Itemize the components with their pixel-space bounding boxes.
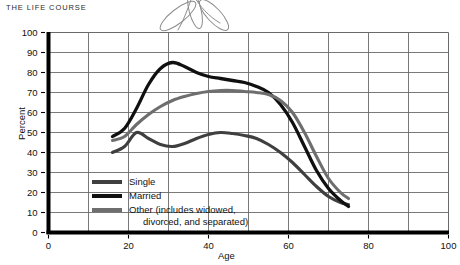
x-tick-label: 60	[274, 241, 304, 251]
x-axis-title: Age	[218, 250, 235, 261]
legend-color-swatch	[92, 208, 122, 212]
x-tick-label: 100	[434, 241, 460, 251]
y-tick-label: 10	[10, 208, 38, 218]
legend-color-swatch	[92, 194, 122, 198]
y-tick-label: 30	[10, 168, 38, 178]
x-tick-label: 80	[354, 241, 384, 251]
legend-label: Single	[129, 176, 155, 188]
y-axis-title: Percent	[16, 94, 27, 154]
line-chart-figure: 1009080706050403020100 020406080100 Perc…	[0, 0, 460, 265]
x-tick-label: 20	[114, 241, 144, 251]
y-tick-label: 90	[10, 48, 38, 58]
legend-label-continuation: divorced, and separated)	[129, 216, 248, 228]
x-tick-label: 0	[34, 241, 64, 251]
legend-label: Married	[129, 190, 161, 202]
x-tick-label: 40	[194, 241, 224, 251]
y-tick-label: 80	[10, 68, 38, 78]
legend-color-swatch	[92, 180, 122, 184]
y-tick-label: 20	[10, 188, 38, 198]
legend-item: Single	[92, 176, 248, 190]
legend-item: Married	[92, 190, 248, 204]
legend-item: Other (includes widowed,divorced, and se…	[92, 204, 248, 228]
y-tick-label: 0	[10, 228, 38, 238]
y-tick-label: 100	[10, 28, 38, 38]
legend-label: Other (includes widowed,divorced, and se…	[129, 204, 248, 227]
chart-legend: SingleMarriedOther (includes widowed,div…	[92, 176, 248, 228]
